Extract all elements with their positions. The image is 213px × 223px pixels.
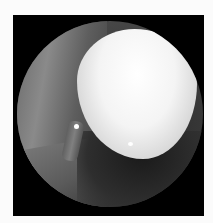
- image-frame: [13, 15, 204, 216]
- light-reflection: [74, 124, 79, 129]
- light-reflection-2: [128, 142, 133, 146]
- endoscopic-view: [17, 21, 203, 207]
